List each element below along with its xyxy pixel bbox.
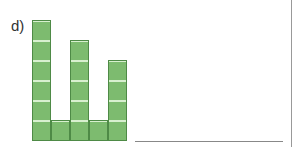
question-label: d): [11, 17, 24, 34]
answer-line: [135, 141, 283, 142]
panel-border: [291, 0, 292, 147]
block-column-2: [51, 120, 70, 141]
block-column-1: [32, 20, 51, 141]
block-column-4: [89, 120, 108, 141]
block-column-3: [70, 40, 89, 141]
block-column-5: [108, 60, 127, 141]
